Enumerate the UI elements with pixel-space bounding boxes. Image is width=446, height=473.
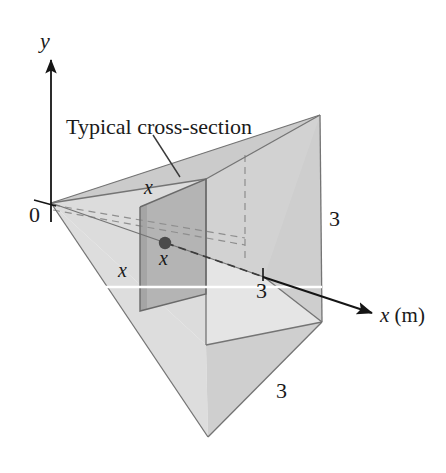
callout-label: Typical cross-section	[66, 114, 252, 139]
point-distance-label: x	[158, 247, 168, 269]
cross-section-top-label: x	[143, 176, 153, 198]
y-axis-label: y	[38, 28, 50, 53]
x-axis-unit-text: (m)	[389, 303, 425, 327]
x-axis-label: x (m)	[379, 303, 425, 327]
base-label-3: 3	[276, 378, 287, 403]
height-label-3: 3	[329, 206, 340, 231]
cross-section-left-label: x	[117, 259, 127, 281]
origin-label: 0	[29, 202, 40, 227]
diagram-svg: y 0 Typical cross-section x x x 3 3 3 x …	[0, 0, 446, 473]
x-axis-tick-label-3: 3	[256, 278, 267, 303]
cross-section-diagram: y 0 Typical cross-section x x x 3 3 3 x …	[0, 0, 446, 473]
